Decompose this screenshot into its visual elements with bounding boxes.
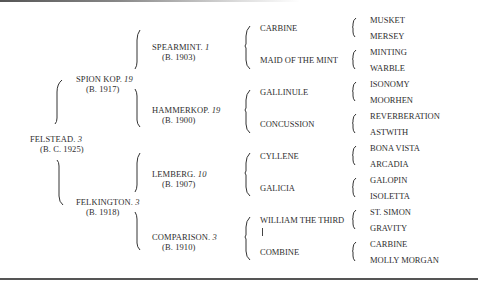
name-text: FELKINGTON. — [76, 197, 133, 207]
brace-spionkop-lower — [135, 89, 140, 127]
horse-gen4: MERSEY — [370, 31, 404, 41]
birth-year: (B. C. 1925) — [30, 144, 84, 154]
horse-gen3: CONCUSSION — [260, 119, 314, 129]
name-text: LEMBERG. — [152, 169, 196, 179]
birth-year: (B. 1917) — [76, 84, 133, 94]
horse-gen4: MUSKET — [370, 15, 405, 25]
name-text: FELSTEAD. — [30, 134, 76, 144]
horse-gen4: BONA VISTA — [370, 143, 420, 153]
family-number: 1 — [205, 42, 209, 52]
horse-gen4: ST. SIMON — [370, 207, 411, 217]
brace-carbine — [353, 18, 357, 37]
name-text: SPEARMINT. — [152, 42, 203, 52]
horse-gen4: REVERBERATION — [370, 111, 440, 121]
brace-felkington-upper — [135, 153, 140, 192]
birth-year: (B. 1910) — [152, 242, 217, 252]
birth-year: (B. 1918) — [76, 207, 140, 217]
brace-cyllene — [353, 146, 357, 165]
horse-gen4: ISONOMY — [370, 79, 410, 89]
horse-gen4: ASTWITH — [370, 127, 408, 137]
bottom-rule — [0, 278, 478, 280]
brace-maid — [353, 50, 357, 69]
horse-name: FELKINGTON. 3 — [76, 197, 140, 207]
family-number: 19 — [212, 105, 221, 115]
brace-lemberg — [245, 153, 250, 196]
brace-combine — [353, 242, 357, 261]
horse-name: SPION KOP. 19 — [76, 74, 133, 84]
horse-gen3: GALLINULE — [260, 87, 308, 97]
stray-mark — [262, 228, 263, 236]
horse-name: LEMBERG. 10 — [152, 169, 206, 179]
family-number: 19 — [124, 74, 133, 84]
horse-name: COMPARISON. 3 — [152, 232, 217, 242]
horse-root: FELSTEAD. 3 (B. C. 1925) — [30, 134, 84, 154]
horse-gen4: ARCADIA — [370, 159, 409, 169]
horse-gen3: COMBINE — [260, 247, 299, 257]
brace-william — [353, 210, 357, 229]
horse-gen4: MOORHEN — [370, 95, 413, 105]
name-text: COMPARISON. — [152, 232, 210, 242]
horse-gen2-1: SPEARMINT. 1 (B. 1903) — [152, 42, 209, 62]
brace-spearmint — [245, 26, 250, 69]
horse-gen4: MINTING — [370, 47, 407, 57]
family-number: 3 — [212, 232, 216, 242]
birth-year: (B. 1903) — [152, 52, 209, 62]
brace-root-upper — [55, 80, 62, 124]
name-text: SPION KOP. — [76, 74, 122, 84]
brace-comparison — [245, 217, 250, 260]
horse-gen4: ISOLETTA — [370, 191, 410, 201]
horse-gen3: MAID OF THE MINT — [260, 55, 338, 65]
family-number: 10 — [198, 169, 207, 179]
brace-gallinule — [353, 82, 357, 101]
brace-felkington-lower — [135, 212, 140, 250]
horse-name: HAMMERKOP. 19 — [152, 105, 220, 115]
horse-gen4: CARBINE — [370, 239, 407, 249]
horse-sire: SPION KOP. 19 (B. 1917) — [76, 74, 133, 94]
birth-year: (B. 1907) — [152, 179, 206, 189]
family-number: 3 — [135, 197, 139, 207]
horse-name: FELSTEAD. 3 — [30, 134, 84, 144]
horse-gen2-2: HAMMERKOP. 19 (B. 1900) — [152, 105, 220, 125]
horse-gen4: GRAVITY — [370, 223, 407, 233]
horse-gen3: CYLLENE — [260, 151, 299, 161]
horse-name: SPEARMINT. 1 — [152, 42, 209, 52]
birth-year: (B. 1900) — [152, 115, 220, 125]
brace-galicia — [353, 178, 357, 197]
horse-gen4: MOLLY MORGAN — [370, 255, 439, 265]
family-number: 3 — [78, 134, 82, 144]
horse-gen4: WARBLE — [370, 63, 405, 73]
name-text: HAMMERKOP. — [152, 105, 209, 115]
horse-dam: FELKINGTON. 3 (B. 1918) — [76, 197, 140, 217]
horse-gen3: CARBINE — [260, 23, 297, 33]
horse-gen2-4: COMPARISON. 3 (B. 1910) — [152, 232, 217, 252]
brace-concussion — [353, 114, 357, 133]
horse-gen4: GALOPIN — [370, 175, 407, 185]
horse-gen3: WILLIAM THE THIRD — [260, 215, 344, 225]
brace-root-lower — [57, 160, 63, 205]
brace-spionkop-upper — [135, 30, 140, 69]
horse-gen2-3: LEMBERG. 10 (B. 1907) — [152, 169, 206, 189]
brace-hammerkop — [245, 90, 250, 133]
horse-gen3: GALICIA — [260, 183, 295, 193]
